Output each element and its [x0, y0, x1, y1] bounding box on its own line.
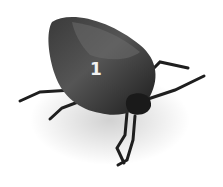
number-label: 1 — [90, 61, 102, 78]
bug-photo: 1 — [0, 0, 223, 187]
stink-bug-illustration — [0, 0, 223, 187]
